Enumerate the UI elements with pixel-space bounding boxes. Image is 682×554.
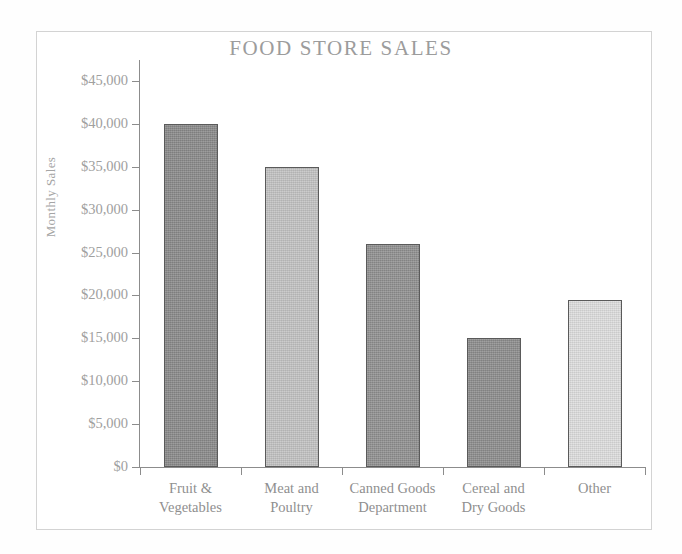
y-axis-tick-label-wrap: $15,000 (28, 329, 128, 347)
y-axis-tick (132, 124, 139, 125)
bar (467, 338, 521, 467)
y-axis-tick-label: $25,000 (36, 244, 128, 261)
y-axis-tick-label-wrap: $5,000 (28, 415, 128, 433)
x-axis-tick (241, 467, 242, 475)
bar (366, 244, 420, 467)
y-axis-tick-label: $20,000 (36, 286, 128, 303)
x-axis-category-label: Cereal andDry Goods (443, 479, 544, 517)
chart-border (36, 31, 652, 530)
bar (568, 300, 622, 467)
y-axis-tick-label: $30,000 (36, 201, 128, 218)
y-axis-tick-label: $0 (36, 458, 128, 475)
y-axis-tick-label-wrap: $10,000 (28, 372, 128, 390)
category-label-line-1: Other (578, 480, 611, 496)
y-axis-tick (132, 81, 139, 82)
y-axis-tick-label: $10,000 (36, 372, 128, 389)
y-axis-tick-label: $35,000 (36, 158, 128, 175)
category-label-line-2: Dry Goods (443, 498, 544, 517)
bar (265, 167, 319, 467)
category-label-line-2: Poultry (241, 498, 342, 517)
y-axis-tick-label-wrap: $40,000 (28, 115, 128, 133)
y-axis-tick (132, 467, 139, 468)
x-axis-category-label: Fruit &Vegetables (140, 479, 241, 517)
x-axis-category-label: Meat andPoultry (241, 479, 342, 517)
y-axis-tick-label: $40,000 (36, 115, 128, 132)
chart-figure: FOOD STORE SALES Monthly Sales $0$5,000$… (0, 0, 682, 554)
category-label-line-1: Canned Goods (350, 480, 436, 496)
x-axis-tick (544, 467, 545, 475)
y-axis-tick (132, 253, 139, 254)
category-label-line-2: Vegetables (140, 498, 241, 517)
y-axis-tick-label-wrap: $0 (28, 458, 128, 476)
y-axis-tick (132, 424, 139, 425)
y-axis-tick-label: $5,000 (36, 415, 128, 432)
y-axis-tick-label-wrap: $25,000 (28, 244, 128, 262)
y-axis-tick-label-wrap: $45,000 (28, 72, 128, 90)
y-axis-tick (132, 167, 139, 168)
x-axis-tick (140, 467, 141, 475)
x-axis-category-label: Other (544, 479, 645, 498)
y-axis-tick (132, 295, 139, 296)
y-axis-tick-label: $15,000 (36, 329, 128, 346)
x-axis-tick (645, 467, 646, 475)
y-axis-tick-label-wrap: $20,000 (28, 286, 128, 304)
x-axis-line (139, 467, 646, 468)
y-axis-tick (132, 381, 139, 382)
y-axis-line (139, 60, 140, 468)
y-axis-tick-label: $45,000 (36, 72, 128, 89)
y-axis-tick (132, 338, 139, 339)
x-axis-category-label: Canned GoodsDepartment (342, 479, 443, 517)
y-axis-tick (132, 210, 139, 211)
bar (164, 124, 218, 467)
category-label-line-1: Fruit & (169, 480, 212, 496)
chart-title: FOOD STORE SALES (0, 36, 682, 61)
x-axis-tick (342, 467, 343, 475)
x-axis-tick (443, 467, 444, 475)
category-label-line-2: Department (342, 498, 443, 517)
category-label-line-1: Meat and (264, 480, 318, 496)
y-axis-tick-label-wrap: $35,000 (28, 158, 128, 176)
category-label-line-1: Cereal and (462, 480, 524, 496)
y-axis-tick-label-wrap: $30,000 (28, 201, 128, 219)
